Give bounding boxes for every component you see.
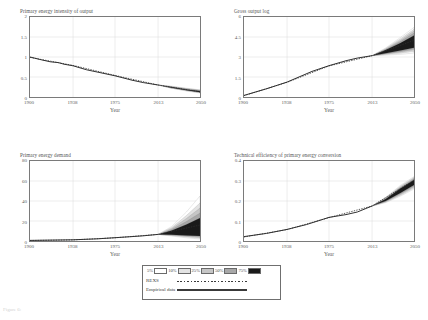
legend-percentile-swatch: [178, 268, 191, 274]
x-axis-tick-label: 1900: [24, 100, 34, 105]
x-axis-label: Year: [29, 251, 201, 257]
panel-primary-energy-intensity: Primary energy intensity of output 00.51…: [20, 8, 210, 128]
x-axis-tick-label: 2013: [154, 100, 164, 105]
y-axis-tick-label: 3: [224, 55, 241, 60]
figure-root: Primary energy intensity of output 00.51…: [0, 0, 428, 320]
legend-dotted-line-swatch: [177, 281, 247, 282]
legend-label-rexs: REXS: [146, 278, 177, 284]
x-axis-tick-label: 1938: [68, 244, 78, 249]
x-axis-tick-label: 2050: [196, 244, 206, 249]
legend-percentile-label: 25%: [192, 268, 200, 274]
y-axis-tick-label: 40: [10, 199, 27, 204]
legend-percentile-label: 5%: [147, 268, 153, 274]
plot-area: [243, 16, 415, 98]
x-axis-tick-label: 1900: [24, 244, 34, 249]
y-axis-tick-label: 6: [224, 14, 241, 19]
panel-technical-efficiency: Technical efficiency of primary energy c…: [234, 152, 424, 272]
y-axis-tick-label: 2: [10, 14, 27, 19]
panel-title: Primary energy intensity of output: [20, 8, 93, 15]
x-axis-tick-label: 1975: [324, 100, 334, 105]
legend-percentile-swatch: [154, 268, 167, 274]
y-axis-tick-label: 0.1: [224, 219, 241, 224]
x-axis-tick-label: 1900: [238, 244, 248, 249]
y-axis-tick-label: 4.5: [224, 34, 241, 39]
legend-percentile-swatch: [201, 268, 214, 274]
y-axis-tick-label: 20: [10, 219, 27, 224]
plot-canvas: [244, 161, 414, 241]
x-axis-tick-label: 2050: [410, 244, 420, 249]
x-axis-label: Year: [243, 251, 415, 257]
figure-caption: Figure 6:: [3, 307, 21, 313]
y-axis-tick-label: 80: [10, 158, 27, 163]
x-axis-tick-label: 2050: [410, 100, 420, 105]
plot-area: [29, 16, 201, 98]
x-axis-tick-label: 2050: [196, 100, 206, 105]
x-axis-tick-label: 2013: [154, 244, 164, 249]
x-axis-tick-label: 2013: [368, 100, 378, 105]
plot-canvas: [244, 17, 414, 97]
y-axis-tick-label: 1.5: [224, 75, 241, 80]
x-axis-tick-label: 2013: [368, 244, 378, 249]
x-axis-tick-label: 1975: [324, 244, 334, 249]
x-axis-tick-label: 1938: [68, 100, 78, 105]
x-axis-tick-label: 1900: [238, 100, 248, 105]
x-axis-label: Year: [243, 107, 415, 113]
x-axis-tick-label: 1975: [110, 244, 120, 249]
plot-area: [29, 160, 201, 242]
panel-primary-energy-demand: Primary energy demand 020406080 19001938…: [20, 152, 210, 272]
plot-area: [243, 160, 415, 242]
panel-title: Technical efficiency of primary energy c…: [234, 152, 341, 159]
legend-percentile-label: 10%: [168, 268, 176, 274]
x-axis-label: Year: [29, 107, 201, 113]
legend-percentile-label: 50%: [215, 268, 223, 274]
legend-solid-line-swatch: [177, 289, 247, 290]
y-axis-tick-label: 0.4: [224, 158, 241, 163]
legend-series-rexs: REXS: [146, 278, 247, 284]
legend-percentile-swatch: [224, 268, 237, 274]
x-axis-tick-label: 1938: [282, 100, 292, 105]
legend-percentile-row: 5%10%25%50%75%: [146, 268, 261, 274]
y-axis-tick-label: 0.5: [10, 75, 27, 80]
legend-percentile-swatch: [248, 268, 261, 274]
plot-canvas: [30, 17, 200, 97]
fan-chart-legend: 5%10%25%50%75% REXS Empirical data: [142, 265, 281, 300]
y-axis-tick-label: 0.3: [224, 178, 241, 183]
legend-label-empirical-data: Empirical data: [146, 287, 177, 293]
y-axis-tick-label: 1: [10, 55, 27, 60]
y-axis-tick-label: 60: [10, 178, 27, 183]
x-axis-tick-label: 1938: [282, 244, 292, 249]
legend-series-empirical: Empirical data: [146, 287, 247, 293]
y-axis-tick-label: 1.5: [10, 34, 27, 39]
panel-title: Primary energy demand: [20, 152, 71, 159]
x-axis-tick-label: 1975: [110, 100, 120, 105]
legend-percentile-label: 75%: [238, 268, 246, 274]
y-axis-tick-label: 0.2: [224, 199, 241, 204]
panel-gross-output-log: Gross output log 01.534.56 1900193819752…: [234, 8, 424, 128]
plot-canvas: [30, 161, 200, 241]
